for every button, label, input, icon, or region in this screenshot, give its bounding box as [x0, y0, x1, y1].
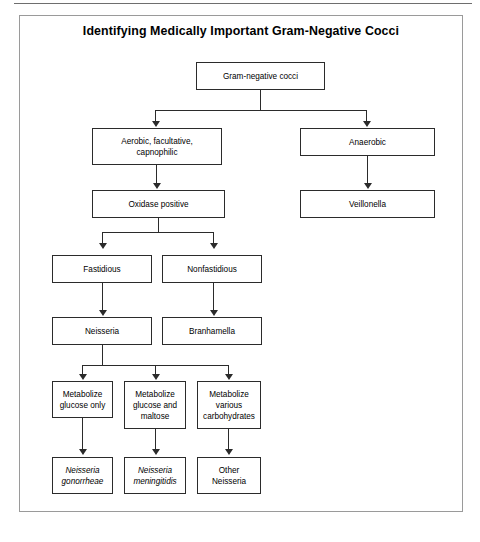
connector-root-bus: [155, 110, 367, 111]
connector-neisseria-stem: [102, 345, 103, 366]
node-label-line1: Metabolize: [209, 389, 249, 400]
node-label: Neisseria: [85, 326, 119, 337]
connector-oxidase-stem: [158, 218, 159, 233]
node-label-line2: meningitidis: [133, 476, 176, 487]
node-label-line1: Aerobic, facultative,: [121, 136, 192, 147]
arrowhead-root-to-aerobic: [152, 121, 160, 127]
node-nonfastidious: Nonfastidious: [162, 255, 262, 283]
node-label-line2: various: [216, 400, 242, 411]
arrowhead-met-glucose-maltose-to-meningitidis: [152, 449, 160, 455]
figure-title: Identifying Medically Important Gram-Neg…: [19, 24, 463, 38]
connector-met-glucose-to-gonorrheae: [82, 418, 83, 450]
node-label-line1: Metabolize: [63, 389, 103, 400]
node-neisseria-meningitidis: Neisseria meningitidis: [124, 457, 186, 494]
node-label-line2: capnophilic: [137, 147, 178, 158]
node-metabolize-various-carbohydrates: Metabolize various carbohydrates: [197, 381, 261, 429]
arrowhead-neisseria-to-met-glucose: [79, 374, 87, 380]
arrowhead-oxidase-to-fastidious: [99, 243, 107, 249]
node-neisseria: Neisseria: [52, 317, 152, 345]
connector-fastidious-to-neisseria: [102, 283, 103, 311]
node-other-neisseria: Other Neisseria: [197, 457, 261, 494]
node-gram-negative-cocci: Gram-negative cocci: [196, 62, 325, 90]
arrowhead-neisseria-to-met-glucose-maltose: [152, 374, 160, 380]
node-label: Branhamella: [189, 326, 235, 337]
node-metabolize-glucose-and-maltose: Metabolize glucose and maltose: [124, 381, 186, 429]
node-label-line2: Neisseria: [212, 476, 246, 487]
figure-page: Identifying Medically Important Gram-Neg…: [0, 0, 480, 542]
arrowhead-met-various-to-other-neisseria: [225, 449, 233, 455]
node-label: Oxidase positive: [128, 199, 188, 210]
node-neisseria-gonorrheae: Neisseria gonorrheae: [52, 457, 113, 494]
arrowhead-oxidase-to-nonfastidious: [210, 243, 218, 249]
node-label-line1: Neisseria: [65, 465, 99, 476]
arrowhead-nonfastidious-to-branhamella: [210, 310, 218, 316]
node-veillonella: Veillonella: [300, 190, 435, 218]
arrowhead-aerobic-to-oxidase: [153, 183, 161, 189]
node-label-line1: Neisseria: [138, 465, 172, 476]
node-label-line3: carbohydrates: [203, 411, 255, 422]
node-label: Veillonella: [349, 199, 386, 210]
node-label: Nonfastidious: [187, 264, 237, 275]
node-label-line3: maltose: [141, 411, 170, 422]
connector-root-stem: [260, 90, 261, 111]
arrowhead-anaerobic-to-veillonella: [364, 183, 372, 189]
node-label-line1: Other: [219, 465, 239, 476]
node-label-line1: Metabolize: [135, 389, 175, 400]
arrowhead-fastidious-to-neisseria: [99, 310, 107, 316]
connector-oxidase-bus: [102, 232, 214, 233]
connector-met-glucose-maltose-to-meningitidis: [155, 429, 156, 450]
connector-nonfastidious-to-branhamella: [213, 283, 214, 311]
node-fastidious: Fastidious: [52, 255, 152, 283]
node-aerobic-facultative-capnophilic: Aerobic, facultative, capnophilic: [92, 128, 222, 165]
node-oxidase-positive: Oxidase positive: [92, 190, 225, 218]
node-label: Gram-negative cocci: [223, 71, 298, 82]
node-label: Fastidious: [83, 264, 120, 275]
connector-met-various-to-other-neisseria: [228, 429, 229, 450]
arrowhead-met-glucose-to-gonorrheae: [79, 449, 87, 455]
node-label: Anaerobic: [349, 137, 386, 148]
node-anaerobic: Anaerobic: [300, 128, 435, 156]
connector-aerobic-to-oxidase: [156, 165, 157, 184]
connector-anaerobic-to-veillonella: [367, 156, 368, 184]
node-label-line2: gonorrheae: [62, 476, 104, 487]
node-label-line2: glucose only: [60, 400, 106, 411]
node-metabolize-glucose-only: Metabolize glucose only: [52, 381, 113, 418]
top-divider-rule: [14, 3, 472, 4]
arrowhead-neisseria-to-met-various: [225, 374, 233, 380]
node-label-line2: glucose and: [133, 400, 177, 411]
node-branhamella: Branhamella: [162, 317, 262, 345]
arrowhead-root-to-anaerobic: [363, 121, 371, 127]
